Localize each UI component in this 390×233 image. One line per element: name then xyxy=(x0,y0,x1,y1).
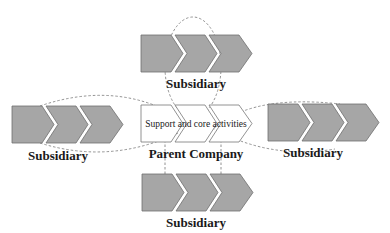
value-chain-chevrons xyxy=(141,35,252,72)
subsidiary-top: Subsidiary xyxy=(141,35,252,91)
subsidiary-bottom-label: Subsidiary xyxy=(166,215,226,230)
parent-company: Support and core activities Parent Compa… xyxy=(141,105,252,161)
subsidiary-right: Subsidiary xyxy=(268,104,379,160)
subsidiary-left-label: Subsidiary xyxy=(28,148,88,163)
value-chain-chevrons xyxy=(268,104,379,141)
parent-company-label: Parent Company xyxy=(149,146,244,161)
subsidiary-right-label: Subsidiary xyxy=(283,145,343,160)
subsidiary-bottom: Subsidiary xyxy=(142,174,253,230)
value-chain-chevrons xyxy=(142,174,253,211)
subsidiary-left: Subsidiary xyxy=(12,106,123,163)
parent-subsidiary-diagram: Subsidiary Subsidiary Support and core a… xyxy=(0,0,390,233)
subsidiary-top-label: Subsidiary xyxy=(166,76,226,91)
value-chain-chevrons xyxy=(12,106,123,143)
parent-activities-label: Support and core activities xyxy=(145,119,247,129)
